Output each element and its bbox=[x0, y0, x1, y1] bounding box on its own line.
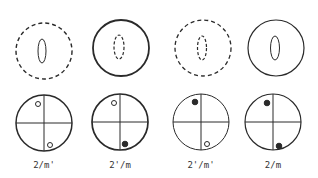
stereogram-2-m-prime bbox=[16, 95, 72, 151]
open-pole-upper bbox=[36, 102, 41, 107]
diagram-canvas bbox=[0, 0, 318, 178]
inner-dashed-ellipse bbox=[114, 35, 124, 59]
label-2-prime-m-prime: 2'/m' bbox=[187, 160, 214, 170]
domain-2-m-prime bbox=[16, 23, 72, 79]
outer-solid-circle bbox=[248, 20, 304, 76]
inner-solid-ellipse bbox=[271, 36, 280, 60]
filled-pole-upper bbox=[264, 100, 270, 106]
outer-solid-circle bbox=[93, 20, 149, 76]
filled-pole-upper bbox=[192, 99, 198, 105]
domain-2-prime-m bbox=[93, 20, 149, 76]
inner-dashed-ellipse bbox=[198, 36, 207, 60]
stereogram-2-m bbox=[245, 94, 301, 150]
label-2-prime-m: 2'/m bbox=[109, 160, 131, 170]
filled-pole-lower bbox=[276, 143, 282, 149]
outer-dashed-circle bbox=[175, 20, 231, 76]
label-2-m: 2/m bbox=[265, 160, 281, 170]
inner-solid-ellipse bbox=[38, 39, 46, 63]
stereogram-2-prime-m bbox=[92, 94, 148, 150]
stereogram-2-prime-m-prime bbox=[173, 94, 229, 150]
open-pole-lower bbox=[48, 143, 53, 148]
open-pole-upper bbox=[112, 101, 117, 106]
domain-2-m bbox=[248, 20, 304, 76]
label-2-m-prime: 2/m' bbox=[33, 160, 55, 170]
open-pole-lower bbox=[205, 142, 210, 147]
filled-pole-lower bbox=[122, 141, 128, 147]
domain-2-prime-m-prime bbox=[175, 20, 231, 76]
outer-dashed-circle bbox=[16, 23, 72, 79]
